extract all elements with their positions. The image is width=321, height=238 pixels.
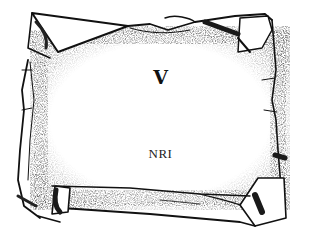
scroll-subtitle: NRI [0,146,321,162]
scroll-title: V [0,66,321,88]
scroll-frame-drawing [0,0,321,238]
stipple-shading [30,26,290,210]
scroll-illustration: V NRI [0,0,321,238]
